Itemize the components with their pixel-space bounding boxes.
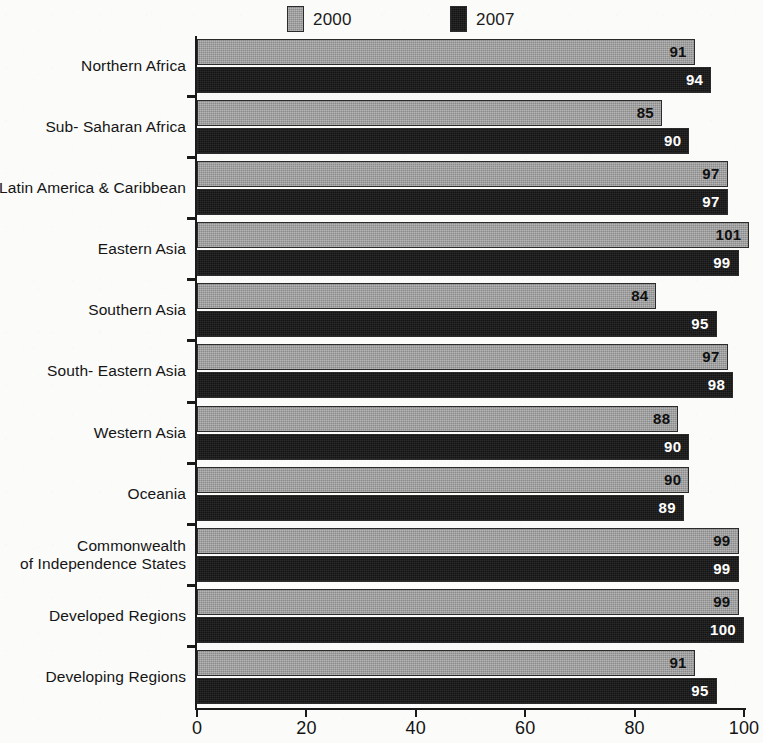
bar-track: 97 bbox=[197, 161, 763, 187]
category-label-line: of Independence States bbox=[0, 555, 186, 573]
bar-2007 bbox=[197, 67, 711, 93]
bar-value-label: 99 bbox=[713, 528, 730, 554]
x-axis-tick bbox=[524, 708, 526, 717]
bar-2007 bbox=[197, 128, 689, 154]
category-label: Developing Regions bbox=[0, 668, 186, 686]
bar-value-label: 101 bbox=[716, 222, 742, 248]
bar-track: 97 bbox=[197, 344, 763, 370]
category-label-line: Developing Regions bbox=[0, 668, 186, 686]
x-axis-tick bbox=[305, 708, 307, 717]
bar-track: 84 bbox=[197, 283, 763, 309]
bar-value-label: 99 bbox=[713, 250, 730, 276]
bar-value-label: 97 bbox=[702, 344, 719, 370]
bar-track: 99 bbox=[197, 528, 763, 554]
category-label: Commonwealthof Independence States bbox=[0, 537, 186, 573]
category-label: Developed Regions bbox=[0, 607, 186, 625]
bar-value-label: 84 bbox=[631, 283, 648, 309]
x-axis-tick bbox=[415, 708, 417, 717]
bar-value-label: 91 bbox=[669, 39, 686, 65]
bar-track: 90 bbox=[197, 467, 763, 493]
bar-2000 bbox=[197, 39, 695, 65]
bar-track: 94 bbox=[197, 67, 763, 93]
bar-2000 bbox=[197, 100, 662, 126]
category-axis-tick bbox=[187, 156, 197, 159]
category-label-line: Latin America & Caribbean bbox=[0, 179, 186, 197]
bar-track: 91 bbox=[197, 39, 763, 65]
bar-track: 88 bbox=[197, 406, 763, 432]
category-axis-tick bbox=[187, 584, 197, 587]
bar-track: 90 bbox=[197, 434, 763, 460]
legend-entry-2000: 2000 bbox=[287, 6, 352, 32]
bar-value-label: 89 bbox=[659, 495, 676, 521]
bar-2000 bbox=[197, 406, 678, 432]
bar-2000 bbox=[197, 650, 695, 676]
bar-2000 bbox=[197, 467, 689, 493]
category-label: Southern Asia bbox=[0, 301, 186, 319]
bar-value-label: 100 bbox=[710, 617, 736, 643]
bar-value-label: 94 bbox=[686, 67, 703, 93]
legend-label-2000: 2000 bbox=[313, 11, 352, 28]
category-axis-tick bbox=[187, 217, 197, 220]
x-axis-tick bbox=[743, 708, 745, 717]
category-axis-tick bbox=[187, 278, 197, 281]
category-axis-tick bbox=[187, 339, 197, 342]
plot-area: Northern Africa9194Sub- Saharan Africa85… bbox=[0, 36, 752, 708]
legend-label-2007: 2007 bbox=[476, 11, 515, 28]
bar-value-label: 97 bbox=[702, 189, 719, 215]
category-label: South- Eastern Asia bbox=[0, 362, 186, 380]
bar-value-label: 90 bbox=[664, 467, 681, 493]
category-label-line: Oceania bbox=[0, 485, 186, 503]
bar-2007 bbox=[197, 678, 717, 704]
bar-2000 bbox=[197, 344, 728, 370]
x-axis-tick-label: 80 bbox=[605, 718, 665, 739]
bar-2007 bbox=[197, 372, 733, 398]
category-label: Sub- Saharan Africa bbox=[0, 118, 186, 136]
category-label: Oceania bbox=[0, 485, 186, 503]
bar-track: 98 bbox=[197, 372, 763, 398]
bar-value-label: 90 bbox=[664, 434, 681, 460]
category-label-line: Southern Asia bbox=[0, 301, 186, 319]
x-axis-tick bbox=[196, 708, 198, 717]
bar-2000 bbox=[197, 283, 656, 309]
bar-value-label: 91 bbox=[669, 650, 686, 676]
bar-value-label: 85 bbox=[637, 100, 654, 126]
bar-track: 95 bbox=[197, 311, 763, 337]
category-label: Latin America & Caribbean bbox=[0, 179, 186, 197]
bar-track: 99 bbox=[197, 250, 763, 276]
bar-track: 99 bbox=[197, 589, 763, 615]
category-label: Western Asia bbox=[0, 424, 186, 442]
x-axis-tick-label: 100 bbox=[714, 718, 763, 739]
category-axis-tick bbox=[187, 462, 197, 465]
category-axis-tick bbox=[187, 523, 197, 526]
bar-2007 bbox=[197, 311, 717, 337]
bar-track: 99 bbox=[197, 556, 763, 582]
category-label-line: Sub- Saharan Africa bbox=[0, 118, 186, 136]
bar-track: 85 bbox=[197, 100, 763, 126]
bar-track: 100 bbox=[197, 617, 763, 643]
bar-value-label: 99 bbox=[713, 589, 730, 615]
category-label-line: Commonwealth bbox=[0, 537, 186, 555]
x-axis-line bbox=[195, 708, 746, 710]
bar-track: 101 bbox=[197, 222, 763, 248]
category-axis-tick bbox=[187, 645, 197, 648]
bar-2000 bbox=[197, 222, 749, 248]
x-axis-tick-label: 60 bbox=[495, 718, 555, 739]
category-axis-tick bbox=[187, 95, 197, 98]
category-label-line: Northern Africa bbox=[0, 57, 186, 75]
category-label: Northern Africa bbox=[0, 57, 186, 75]
bar-2007 bbox=[197, 556, 739, 582]
bar-2000 bbox=[197, 589, 739, 615]
bar-value-label: 95 bbox=[691, 678, 708, 704]
category-label: Eastern Asia bbox=[0, 240, 186, 258]
legend-swatch-2000 bbox=[287, 6, 304, 32]
bar-track: 97 bbox=[197, 189, 763, 215]
category-label-line: Eastern Asia bbox=[0, 240, 186, 258]
legend-swatch-2007 bbox=[450, 6, 467, 32]
chart-legend: 20002007 bbox=[0, 4, 752, 34]
category-axis-tick bbox=[187, 401, 197, 404]
x-axis: 020406080100 bbox=[0, 708, 752, 743]
bar-value-label: 98 bbox=[708, 372, 725, 398]
bar-2000 bbox=[197, 161, 728, 187]
x-axis-tick-label: 0 bbox=[167, 718, 227, 739]
category-label-line: Western Asia bbox=[0, 424, 186, 442]
